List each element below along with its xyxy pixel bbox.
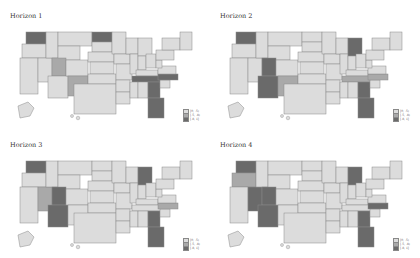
us-choropleth-map: [12, 153, 197, 253]
state-LA: [116, 221, 130, 233]
state-OH: [356, 54, 366, 68]
state-IN: [138, 56, 146, 70]
state-GA: [358, 82, 370, 98]
state-UT: [262, 58, 276, 76]
state-WA: [26, 161, 46, 173]
state-ND: [92, 161, 112, 171]
state-SC: [160, 209, 170, 217]
state-AZ: [48, 205, 68, 227]
state-MI: [348, 38, 362, 56]
state-MO: [326, 193, 342, 209]
state-ID: [256, 161, 268, 187]
state-UT: [52, 187, 66, 205]
state-MN: [112, 32, 126, 54]
state-CO: [66, 189, 88, 205]
state-SC: [370, 209, 380, 217]
state-NC: [368, 74, 388, 80]
state-WI: [126, 38, 138, 54]
state-TN: [342, 205, 372, 211]
state-OR: [232, 44, 256, 58]
state-CA: [230, 187, 248, 223]
state-WA: [26, 32, 46, 44]
state-TX: [284, 84, 326, 114]
state-PA: [366, 179, 384, 189]
state-WA: [236, 32, 256, 44]
legend: [0, .5)[.5, .8)[.8, 1]: [183, 109, 200, 121]
state-ND: [302, 32, 322, 42]
panel-title: Horizon 1: [10, 12, 43, 20]
state-GA: [148, 211, 160, 227]
state-AZ: [258, 76, 278, 98]
state-WI: [336, 167, 348, 183]
state-FL: [148, 98, 164, 118]
state-CO: [66, 60, 88, 76]
state-NE2: [390, 161, 402, 179]
state-MI: [348, 167, 362, 185]
state-AL: [138, 211, 148, 227]
state-MS: [130, 211, 138, 227]
state-IA: [324, 54, 340, 64]
panel-title: Horizon 4: [220, 141, 253, 149]
state-WV: [156, 60, 162, 68]
state-SD: [302, 171, 322, 181]
state-MT: [58, 161, 92, 175]
state-IN: [348, 56, 356, 70]
panel-title: Horizon 3: [10, 141, 43, 149]
state-SD: [92, 171, 112, 181]
state-KY: [346, 199, 368, 205]
state-AL: [348, 211, 358, 227]
state-CO: [276, 189, 298, 205]
state-AL: [348, 82, 358, 98]
panel-horizon-2: Horizon 2 [0, .5)[.5, .8)[.8, 1]: [210, 0, 420, 129]
state-MS: [340, 211, 348, 227]
state-NC: [158, 74, 178, 80]
panel-horizon-3: Horizon 3 [0, .5)[.5, .8)[.8, 1]: [0, 129, 210, 258]
state-AL: [138, 82, 148, 98]
state-TX: [284, 213, 326, 243]
state-KS: [300, 62, 324, 74]
state-AR: [326, 209, 340, 221]
state-MT: [268, 161, 302, 175]
state-TN: [132, 205, 162, 211]
state-OH: [146, 183, 156, 197]
state-OK: [298, 74, 326, 84]
state-LA: [116, 92, 130, 104]
state-WV: [156, 189, 162, 197]
state-OH: [146, 54, 156, 68]
state-FL: [358, 98, 374, 118]
state-SC: [370, 80, 380, 88]
state-OR: [232, 173, 256, 187]
state-WA: [236, 161, 256, 173]
legend: [0, .5)[.5, .8)[.8, 1]: [183, 238, 200, 250]
state-FL: [358, 227, 374, 247]
state-WI: [126, 167, 138, 183]
state-NE: [88, 181, 114, 191]
state-UT: [52, 58, 66, 76]
state-OK: [88, 74, 116, 84]
state-NE: [88, 52, 114, 62]
state-AZ: [48, 76, 68, 98]
state-ND: [92, 32, 112, 42]
state-ID: [256, 32, 268, 58]
state-TN: [132, 76, 162, 82]
state-NY: [162, 167, 180, 179]
state-NY: [162, 38, 180, 50]
state-SD: [92, 42, 112, 52]
state-NY: [372, 167, 390, 179]
state-MN: [322, 32, 336, 54]
state-MS: [130, 82, 138, 98]
state-OR: [22, 173, 46, 187]
state-MT: [268, 32, 302, 46]
state-AR: [326, 80, 340, 92]
state-GA: [358, 211, 370, 227]
state-KY: [346, 70, 368, 76]
state-TN: [342, 76, 372, 82]
state-ID: [46, 32, 58, 58]
state-IA: [324, 183, 340, 193]
state-WI: [336, 38, 348, 54]
state-NC: [158, 203, 178, 209]
state-OH: [356, 183, 366, 197]
state-UT: [262, 187, 276, 205]
state-KS: [90, 62, 114, 74]
state-KY: [136, 70, 158, 76]
